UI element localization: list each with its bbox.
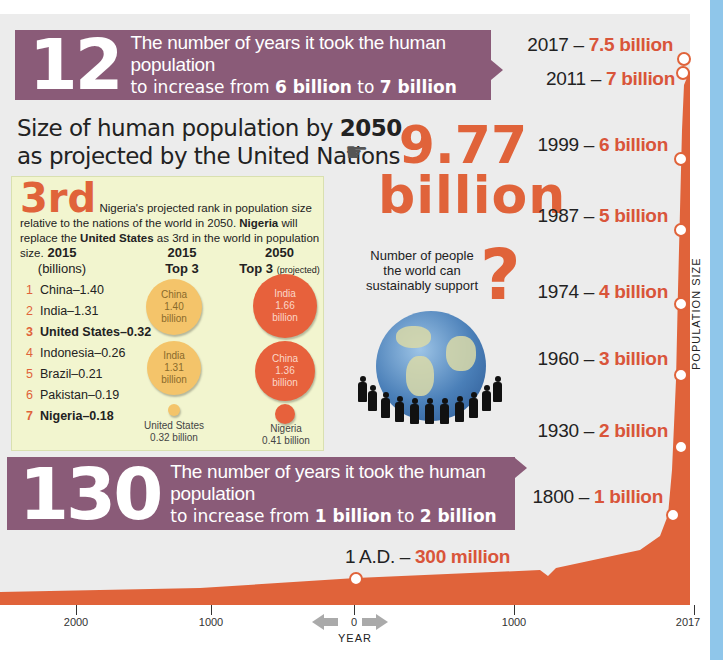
caption-united-states: United States0.32 billion [132, 420, 216, 444]
x-tick-label: 1000 [199, 616, 223, 628]
milestone-dot [674, 223, 688, 237]
banner-text: The number of years it took the human po… [170, 461, 515, 527]
x-tick-label: 0 [351, 616, 357, 628]
x-tick-label: 1000 [502, 616, 526, 628]
milestone-1974: 1974 – 4 billion [538, 281, 668, 303]
milestone-1987: 1987 – 5 billion [538, 205, 668, 227]
milestone-dot [674, 368, 688, 382]
x-tick-label: 2017 [676, 616, 700, 628]
milestone-dot [677, 52, 691, 66]
sustain-question: Number of people the world can sustainab… [362, 248, 482, 293]
projection-value: 9.77 billion [388, 120, 538, 220]
caption-nigeria: Nigeria0.41 billion [244, 423, 328, 447]
milestone-1930: 1930 – 2 billion [538, 420, 668, 442]
bubble-2050-india: India1.66billion [253, 274, 317, 338]
banner-1-to-2-billion: 130 The number of years it took the huma… [7, 457, 515, 530]
y-axis-label: POPULATION SIZE [690, 257, 702, 370]
milestone-1999: 1999 – 6 billion [538, 134, 668, 156]
banner-text: The number of years it took the human po… [130, 32, 491, 98]
nigeria-rank-box: 3rd Nigeria's projected rank in populati… [11, 176, 324, 451]
col-header-2015-billions: 2015(billions) [22, 245, 102, 277]
bubble-2015-united-states [168, 404, 180, 416]
milestone-dot [349, 572, 363, 586]
milestone-2011: 2011 – 7 billion [546, 68, 675, 90]
bubble-2050-nigeria [275, 404, 295, 424]
bubble-2015-india: India1.31billion [147, 341, 201, 395]
rank-row: 5Brazil–0.21 [26, 367, 103, 381]
milestone-dot [676, 66, 690, 80]
arrow-right-icon [376, 614, 388, 630]
banner-number: 130 [19, 458, 160, 530]
col-header-2050-top3: 2050Top 3 (projected) [232, 245, 327, 278]
banner-arrow [515, 458, 527, 478]
milestone-2017: 2017 – 7.5 billion [527, 34, 673, 56]
milestone-1-ad: 1 A.D. – 300 million [345, 546, 510, 568]
rank-row: 4Indonesia–0.26 [26, 346, 126, 360]
pointing-hand-icon: ☛ [345, 137, 368, 168]
milestone-1800: 1800 – 1 billion [533, 486, 663, 508]
x-axis-label: YEAR [338, 632, 372, 644]
rank-row: 3United States–0.32 [26, 325, 151, 339]
bubble-2050-china: China1.36billion [255, 341, 315, 401]
rank-row: 1China–1.40 [26, 283, 104, 297]
x-tick [694, 605, 695, 615]
rank-row: 7Nigeria–0.18 [26, 409, 114, 423]
x-tick [76, 605, 77, 615]
x-tick [354, 605, 355, 615]
rank-number: 3rd [20, 175, 96, 221]
col-header-2015-top3: 2015Top 3 [152, 245, 212, 277]
milestone-dot [666, 508, 680, 522]
arrow-left-icon [312, 614, 324, 630]
banner-number: 12 [29, 30, 120, 100]
milestone-dot [674, 440, 688, 454]
rank-row: 6Pakistan–0.19 [26, 388, 119, 402]
x-tick [211, 605, 212, 615]
x-tick-label: 2000 [64, 616, 88, 628]
milestone-1960: 1960 – 3 billion [538, 348, 668, 370]
milestone-dot [674, 297, 688, 311]
x-tick [514, 605, 515, 615]
banner-6-to-7-billion: 12 The number of years it took the human… [15, 30, 491, 100]
banner-arrow [491, 60, 503, 80]
milestone-dot [674, 152, 688, 166]
rank-row: 2India–1.31 [26, 304, 98, 318]
bubble-2015-china: China1.40billion [146, 279, 202, 335]
question-mark-icon: ? [480, 240, 521, 310]
